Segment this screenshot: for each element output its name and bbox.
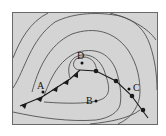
weather-map: A B C D [0, 0, 166, 136]
point-c-dot [128, 88, 131, 91]
point-c-label: C [133, 82, 140, 93]
warm-front-semicircle [141, 108, 146, 113]
point-d-label: D [77, 50, 84, 61]
point-a-label: A [37, 80, 45, 91]
warm-front-semicircle [130, 94, 135, 99]
warm-front-semicircle [114, 79, 119, 84]
point-b-label: B [86, 95, 93, 106]
point-d-dot [81, 62, 84, 65]
point-b-dot [95, 100, 98, 103]
warm-front-semicircle [94, 69, 99, 74]
